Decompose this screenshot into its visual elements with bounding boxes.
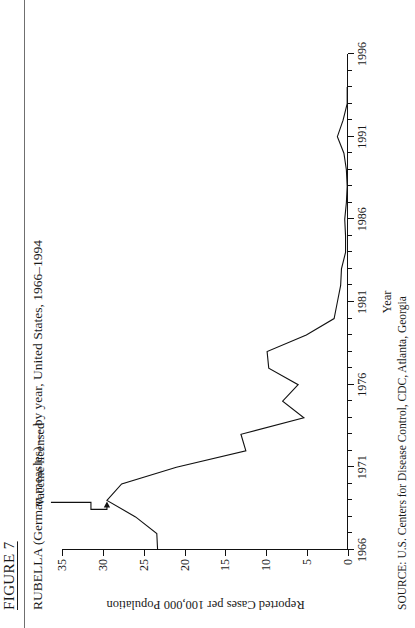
x-tick-minor: [348, 235, 352, 236]
y-tick-label: 10: [259, 559, 274, 571]
x-tick: [348, 549, 354, 550]
x-tick-label: 1986: [355, 207, 370, 231]
x-tick-minor: [348, 433, 352, 434]
y-tick: [266, 550, 267, 556]
x-tick-minor: [348, 367, 352, 368]
x-tick-minor: [348, 86, 352, 87]
x-tick-minor: [348, 318, 352, 319]
x-tick-label: 1976: [355, 373, 370, 397]
y-tick: [103, 550, 104, 556]
y-tick: [225, 550, 226, 556]
x-tick: [348, 301, 354, 302]
x-tick-minor: [348, 400, 352, 401]
x-tick-minor: [348, 202, 352, 203]
y-tick: [144, 550, 145, 556]
y-tick-label: 5: [300, 559, 315, 565]
y-tick: [348, 550, 349, 556]
y-tick-label: 20: [177, 559, 192, 571]
arrow-leader-line: [51, 502, 107, 509]
y-tick: [185, 550, 186, 556]
y-tick-label: 25: [136, 559, 151, 571]
x-tick: [348, 218, 354, 219]
y-tick: [307, 550, 308, 556]
x-tick-minor: [348, 103, 352, 104]
x-tick: [348, 53, 354, 54]
x-tick-minor: [348, 185, 352, 186]
x-tick-minor: [348, 499, 352, 500]
x-tick-minor: [348, 516, 352, 517]
y-tick: [62, 550, 63, 556]
x-tick-minor: [348, 483, 352, 484]
rotated-figure-frame: FIGURE 7 RUBELLA (German measles) — by y…: [0, 0, 415, 628]
y-tick-label: 35: [55, 559, 70, 571]
figure-heading: FIGURE 7: [1, 541, 18, 610]
x-tick-minor: [348, 119, 352, 120]
y-axis-label-text: Reported Cases per 100,000 Population: [106, 598, 304, 613]
x-tick: [348, 466, 354, 467]
x-tick-label: 1981: [355, 290, 370, 314]
x-tick-minor: [348, 351, 352, 352]
x-tick-minor: [348, 70, 352, 71]
x-tick-minor: [348, 334, 352, 335]
x-axis-label: Year: [380, 54, 395, 550]
x-tick-label: 1991: [355, 125, 370, 149]
figure-page: FIGURE 7 RUBELLA (German measles) — by y…: [0, 0, 415, 628]
heading-rule: [24, 0, 25, 628]
y-axis-label: Reported Cases per 100,000 Population: [62, 596, 348, 614]
x-tick-label: 1996: [355, 42, 370, 66]
x-tick-minor: [348, 417, 352, 418]
x-tick: [348, 384, 354, 385]
x-tick-minor: [348, 450, 352, 451]
arrow-head-icon: [104, 501, 110, 507]
source-note: SOURCE: U.S. Centers for Disease Control…: [396, 296, 408, 610]
x-tick-minor: [348, 532, 352, 533]
x-tick: [348, 136, 354, 137]
x-tick-minor: [348, 152, 352, 153]
x-tick-minor: [348, 268, 352, 269]
annotation-label: Vaccine licensed: [33, 423, 48, 507]
y-tick-label: 15: [218, 559, 233, 571]
x-tick-label: 1971: [355, 455, 370, 479]
annotation-arrow-icon: [62, 54, 348, 550]
x-tick-minor: [348, 251, 352, 252]
x-tick-minor: [348, 169, 352, 170]
x-tick-label: 1966: [355, 538, 370, 562]
plot-area: 05101520253035 1966197119761981198619911…: [62, 54, 348, 550]
y-tick-label: 30: [95, 559, 110, 571]
x-tick-minor: [348, 284, 352, 285]
y-tick-label: 0: [341, 559, 356, 565]
